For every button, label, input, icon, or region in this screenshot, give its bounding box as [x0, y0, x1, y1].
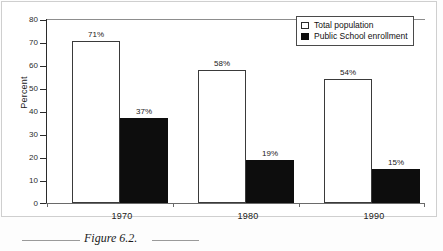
x-axis-label-1990: 1990	[324, 212, 424, 221]
y-axis-tick-labels: 80 70 60 50 40 30 20 10 0	[0, 0, 38, 251]
bar-total-1970[interactable]	[72, 41, 120, 203]
plot-area: 71% 37% 58% 19% 54% 15%	[47, 20, 424, 203]
y-tick-label-50: 50	[4, 85, 38, 93]
y-tick-label-10: 10	[4, 177, 38, 185]
bar-value-label-total-1970: 71%	[72, 31, 120, 39]
bar-public-1970[interactable]	[120, 118, 168, 203]
y-tick-label-40: 40	[4, 108, 38, 116]
legend-label-total-population: Total population	[314, 21, 374, 30]
bar-total-1990[interactable]	[324, 79, 372, 203]
y-tick-label-20: 20	[4, 154, 38, 162]
figure-container: Percent 80 70 60 50 40 30 20 10 0 71% 37…	[0, 0, 443, 251]
bar-public-1980[interactable]	[246, 160, 294, 203]
legend-swatch-hollow-square-icon	[301, 22, 309, 29]
bar-public-1990[interactable]	[372, 169, 420, 203]
legend-item-total-population[interactable]: Total population	[301, 20, 408, 31]
x-tick-mark-start	[47, 203, 48, 207]
figure-caption: Figure 6.2.	[84, 232, 137, 245]
y-tick-label-80: 80	[4, 16, 38, 24]
chart-legend[interactable]: Total population Public School enrollmen…	[296, 16, 414, 46]
x-axis-label-1970: 1970	[72, 212, 172, 221]
figure-caption-band: Figure 6.2.	[0, 228, 443, 251]
caption-rule-left	[22, 240, 80, 241]
x-tick-mark-end	[424, 203, 425, 207]
bar-value-label-public-1980: 19%	[246, 150, 294, 158]
legend-label-public-school-enrollment: Public School enrollment	[314, 32, 408, 41]
x-tick-mark-1	[173, 203, 174, 207]
x-axis-label-1980: 1980	[198, 212, 298, 221]
x-tick-mark-2	[299, 203, 300, 207]
bar-value-label-total-1990: 54%	[324, 69, 372, 77]
y-tick-label-60: 60	[4, 62, 38, 70]
bar-total-1980[interactable]	[198, 70, 246, 203]
legend-swatch-filled-square-icon	[301, 33, 309, 40]
bar-value-label-public-1990: 15%	[372, 159, 420, 167]
caption-rule-right	[152, 240, 199, 241]
x-axis-line	[46, 203, 425, 204]
bar-value-label-total-1980: 58%	[198, 60, 246, 68]
bar-value-label-public-1970: 37%	[120, 108, 168, 116]
y-tick-label-70: 70	[4, 39, 38, 47]
y-tick-label-0: 0	[4, 200, 38, 208]
y-tick-label-30: 30	[4, 131, 38, 139]
legend-item-public-school-enrollment[interactable]: Public School enrollment	[301, 31, 408, 42]
